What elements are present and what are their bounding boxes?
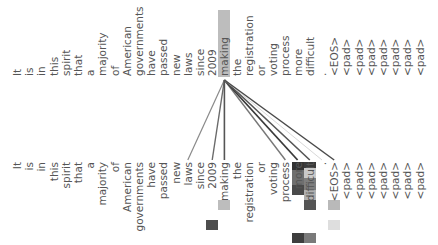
source-token[interactable]: difficult [304, 0, 316, 78]
source-token-label: majority [96, 32, 108, 76]
source-token-label: <EOS> [328, 37, 340, 76]
target-token[interactable]: <pad> [401, 162, 413, 242]
source-token-label: <pad> [401, 39, 413, 76]
source-token-label: <pad> [340, 39, 352, 76]
target-token[interactable]: <pad> [353, 162, 365, 242]
source-token[interactable]: in [35, 0, 47, 78]
target-token[interactable]: more [292, 162, 304, 242]
target-token[interactable]: that [72, 162, 84, 242]
source-token[interactable]: <pad> [377, 0, 389, 78]
target-token-label: <EOS> [328, 162, 340, 201]
target-token[interactable]: process [279, 162, 291, 242]
target-token[interactable]: registration [243, 162, 255, 242]
target-token[interactable]: It [11, 162, 23, 242]
target-token-label: governments [133, 162, 145, 231]
source-token[interactable]: more [292, 0, 304, 78]
source-token-label: <pad> [365, 39, 377, 76]
target-token[interactable]: making [218, 162, 230, 242]
source-token[interactable]: <EOS> [328, 0, 340, 78]
source-token[interactable]: this [48, 0, 60, 78]
attention-line [224, 80, 297, 160]
source-token-label: governments [133, 7, 145, 76]
target-token[interactable]: governments [133, 162, 145, 242]
source-token-label: making [218, 37, 230, 76]
target-token-label: process [279, 162, 291, 202]
source-token[interactable]: <pad> [340, 0, 352, 78]
target-token[interactable]: is [23, 162, 35, 242]
source-token[interactable]: <pad> [401, 0, 413, 78]
target-token[interactable]: since [194, 162, 206, 242]
source-token[interactable]: making [218, 0, 230, 78]
target-token[interactable]: this [48, 162, 60, 242]
source-token[interactable]: voting [267, 0, 279, 78]
target-token-label: difficult [304, 162, 316, 201]
target-token[interactable]: . [316, 162, 328, 242]
target-token-label: of [109, 162, 121, 172]
attention-line [224, 80, 309, 160]
attention-visualization: ItisinthisspiritthatamajorityofAmericang… [0, 0, 438, 245]
source-token-label: <pad> [414, 39, 426, 76]
source-token[interactable]: laws [182, 0, 194, 78]
source-token[interactable]: registration [243, 0, 255, 78]
target-token[interactable]: <EOS> [328, 162, 340, 242]
target-token[interactable]: <pad> [340, 162, 352, 242]
target-token[interactable]: passed [157, 162, 169, 242]
target-token[interactable]: <pad> [414, 162, 426, 242]
source-token[interactable]: . [316, 0, 328, 78]
source-token-label: more [292, 49, 304, 76]
target-token[interactable]: <pad> [365, 162, 377, 242]
source-token[interactable]: It [11, 0, 23, 78]
target-token[interactable]: voting [267, 162, 279, 242]
source-token-label: passed [157, 39, 169, 76]
source-token[interactable]: the [231, 0, 243, 78]
source-token[interactable]: majority [96, 0, 108, 78]
source-token-label: since [194, 49, 206, 76]
source-token[interactable]: have [145, 0, 157, 78]
target-token[interactable]: majority [96, 162, 108, 242]
source-token[interactable]: a [84, 0, 96, 78]
target-token[interactable]: new [170, 162, 182, 242]
source-token-label: spirit [60, 50, 72, 76]
source-token[interactable]: <pad> [414, 0, 426, 78]
source-token[interactable]: since [194, 0, 206, 78]
target-token-label: <pad> [414, 162, 426, 199]
source-token[interactable]: that [72, 0, 84, 78]
source-token[interactable]: 2009 [206, 0, 218, 78]
target-token[interactable]: American [121, 162, 133, 242]
target-token-label: a [84, 162, 96, 168]
target-token[interactable]: <pad> [389, 162, 401, 242]
source-token[interactable]: <pad> [365, 0, 377, 78]
source-token-label: have [145, 50, 157, 76]
target-token[interactable]: difficult [304, 162, 316, 242]
target-token-label: . [316, 162, 328, 165]
source-token[interactable]: of [109, 0, 121, 78]
source-token[interactable]: new [170, 0, 182, 78]
target-token[interactable]: the [231, 162, 243, 242]
source-token[interactable]: process [279, 0, 291, 78]
source-token[interactable]: American [121, 0, 133, 78]
target-token-label: laws [182, 162, 194, 185]
target-token[interactable]: of [109, 162, 121, 242]
source-token[interactable]: or [255, 0, 267, 78]
source-token-label: voting [267, 43, 279, 76]
target-token[interactable]: or [255, 162, 267, 242]
target-token-label: <pad> [340, 162, 352, 199]
source-token[interactable]: <pad> [389, 0, 401, 78]
target-token-label: <pad> [377, 162, 389, 199]
source-token[interactable]: passed [157, 0, 169, 78]
source-token[interactable]: is [23, 0, 35, 78]
target-token[interactable]: a [84, 162, 96, 242]
target-token-label: spirit [60, 162, 72, 188]
source-token[interactable]: governments [133, 0, 145, 78]
target-token[interactable]: spirit [60, 162, 72, 242]
source-token-label: registration [243, 15, 255, 76]
target-token[interactable]: <pad> [377, 162, 389, 242]
target-token[interactable]: laws [182, 162, 194, 242]
source-token[interactable]: spirit [60, 0, 72, 78]
attention-line [224, 80, 334, 160]
source-token[interactable]: <pad> [353, 0, 365, 78]
target-token[interactable]: have [145, 162, 157, 242]
target-token[interactable]: in [35, 162, 47, 242]
source-token-label: 2009 [206, 49, 218, 76]
target-token[interactable]: 2009 [206, 162, 218, 242]
